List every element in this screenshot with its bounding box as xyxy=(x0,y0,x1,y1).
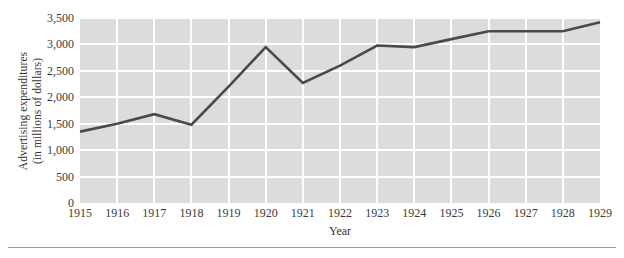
y-tick-label: 2,500 xyxy=(28,65,74,77)
line-series xyxy=(80,18,600,203)
chart-figure: Advertising expenditures (in millions of… xyxy=(0,0,624,258)
footer-divider xyxy=(8,247,616,248)
y-tick-label: 3,500 xyxy=(28,12,74,24)
y-tick-label: 1,500 xyxy=(28,118,74,130)
y-tick-label: 2,000 xyxy=(28,91,74,103)
y-tick-label: 3,000 xyxy=(28,38,74,50)
x-axis-tick-labels: 1915191619171918191919201921192219231924… xyxy=(0,206,624,224)
x-tick-label: 1929 xyxy=(578,206,622,220)
x-axis-title: Year xyxy=(310,224,370,239)
y-tick-label: 1,000 xyxy=(28,144,74,156)
y-tick-label: 500 xyxy=(28,171,74,183)
plot-area xyxy=(80,18,600,203)
